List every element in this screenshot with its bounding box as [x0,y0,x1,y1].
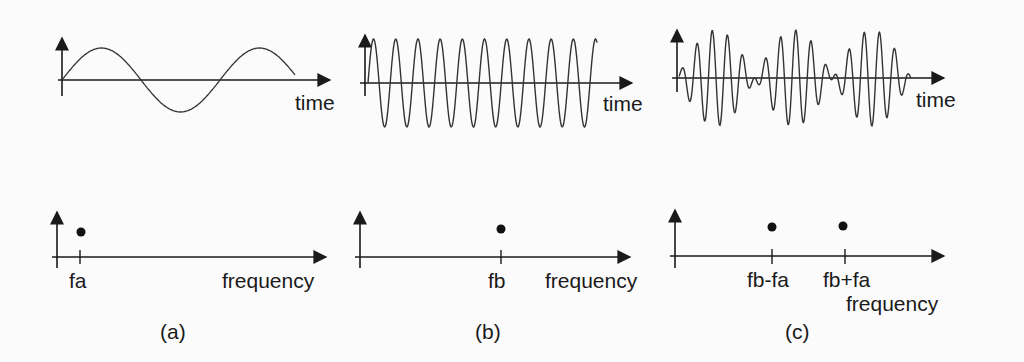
time-axis-label: time [295,91,335,114]
frequency-axis-label: frequency [846,292,939,315]
tick-label-fb-plus-fa: fb+fa [823,268,871,291]
panel-caption-b: (b) [475,320,501,343]
panel-caption-a: (a) [160,320,186,343]
tick-label-fa: fa [69,269,87,292]
spectral-dot-fb [497,225,506,234]
panel-caption-c: (c) [785,320,810,343]
spectral-dot-fb-minus-fa [768,223,777,232]
time-axis-label: time [603,92,643,115]
panel-a-time-plot: time [58,38,335,114]
figure-canvas: time time time fa frequency (a) fb frequ… [0,0,1024,362]
tick-label-fb-minus-fa: fb-fa [747,268,789,291]
time-axis-label: time [916,88,956,111]
frequency-axis-label: frequency [545,269,638,292]
modulation-figure: time time time fa frequency (a) fb frequ… [0,0,1024,362]
tick-label-fb: fb [488,269,506,292]
panel-b-frequency-plot: fb frequency (b) [355,212,638,343]
panel-c-frequency-plot: fb-fa fb+fa frequency (c) [670,210,944,343]
spectral-dot-fa [77,228,86,237]
frequency-axis-label: frequency [222,269,315,292]
panel-a-frequency-plot: fa frequency (a) [52,212,326,343]
panel-c-time-plot: time [672,30,956,126]
spectral-dot-fb-plus-fa [839,222,848,231]
panel-b-time-plot: time [360,35,643,127]
